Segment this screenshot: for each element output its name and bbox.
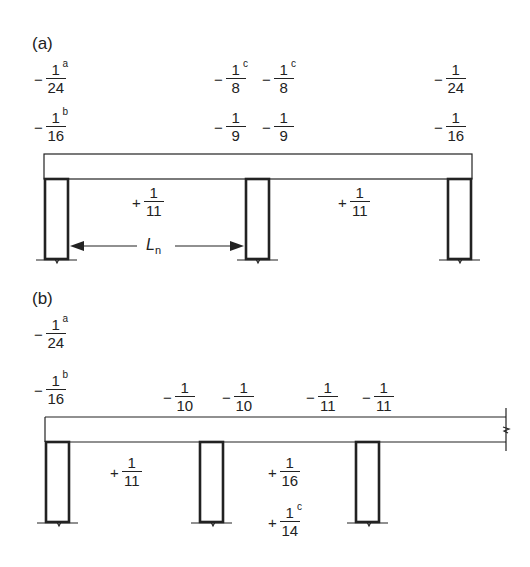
beam-a [44, 154, 472, 179]
panel-b-label: (b) [32, 290, 53, 307]
panel-a-structure [36, 154, 480, 263]
coef-a-ext-right-1: − 124 [434, 62, 466, 96]
coef-b-int2-left: − 111 [306, 380, 338, 414]
coef-a-ext-left-1: − 1a24 [34, 62, 66, 96]
coef-b-int1-left: − 110 [163, 380, 195, 414]
column-b-3 [356, 442, 379, 522]
coef-a-int-left-2: − 19 [214, 110, 246, 144]
coef-b-int2-right: − 111 [362, 380, 394, 414]
coef-b-ext-left-1: − 1a24 [34, 317, 66, 351]
coef-b-span-2: + 116 [268, 455, 300, 489]
column-a-3 [448, 179, 471, 259]
coef-b-int1-right: − 110 [222, 380, 254, 414]
arrowhead-left-icon [70, 241, 84, 251]
coef-a-int-right-2: − 19 [262, 110, 294, 144]
coef-a-ext-right-2: − 116 [434, 110, 466, 144]
coef-b-span-2-alt: + 1c14 [268, 505, 300, 539]
arrowhead-right-icon [230, 241, 244, 251]
coef-b-ext-left-2: − 1b16 [34, 373, 66, 407]
clear-span-label: Ln [143, 236, 164, 256]
column-b-1 [46, 442, 69, 522]
panel-a-label: (a) [32, 35, 53, 52]
coef-a-ext-left-2: − 1b16 [34, 110, 66, 144]
coef-a-span-1: + 111 [132, 185, 164, 219]
coef-a-int-left-1: − 1c8 [214, 62, 246, 96]
coef-a-int-right-1: − 1c8 [262, 62, 294, 96]
coef-b-span-1: + 111 [110, 455, 142, 489]
column-b-2 [200, 442, 223, 522]
column-a-2 [246, 179, 269, 259]
coef-a-span-2: + 111 [338, 185, 370, 219]
column-a-1 [45, 179, 68, 259]
